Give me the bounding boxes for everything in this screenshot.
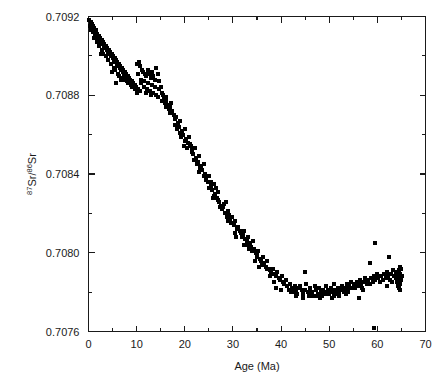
data-point — [234, 235, 238, 239]
data-point — [227, 213, 231, 217]
data-point — [256, 249, 260, 253]
data-point — [146, 68, 150, 72]
data-point — [114, 81, 118, 85]
data-point — [268, 274, 272, 278]
x-tick-label: 30 — [227, 338, 239, 350]
data-point — [149, 93, 153, 97]
data-point — [188, 142, 192, 146]
x-tick-label: 40 — [275, 338, 287, 350]
x-tick-label: 60 — [371, 338, 383, 350]
data-point — [233, 231, 237, 235]
plot-canvas: 010203040506070 0.70760.70800.70840.7088… — [0, 0, 448, 386]
data-point — [398, 265, 402, 269]
data-point — [95, 40, 99, 44]
data-point — [275, 270, 279, 274]
data-point — [397, 270, 401, 274]
data-point — [195, 162, 199, 166]
data-point — [156, 72, 160, 76]
data-point — [329, 286, 333, 290]
data-point — [207, 174, 211, 178]
data-point — [178, 131, 182, 135]
data-point — [218, 205, 222, 209]
data-point — [109, 62, 113, 66]
y-axis-title-sup-86: 86 — [25, 164, 34, 172]
data-point — [230, 215, 234, 219]
data-point — [211, 196, 215, 200]
data-point — [113, 68, 117, 72]
data-point — [298, 284, 302, 288]
data-point — [272, 280, 276, 284]
data-point — [358, 278, 362, 282]
data-point — [198, 166, 202, 170]
data-point — [346, 290, 350, 294]
data-point — [164, 105, 168, 109]
data-point — [106, 58, 110, 62]
data-point — [202, 174, 206, 178]
data-point — [361, 288, 365, 292]
data-point — [400, 274, 404, 278]
data-point — [161, 93, 165, 97]
data-point — [395, 280, 399, 284]
data-point — [274, 286, 278, 290]
y-axis-title-sup-87: 87 — [25, 187, 34, 195]
data-point — [168, 111, 172, 115]
data-point — [192, 158, 196, 162]
data-point — [288, 282, 292, 286]
data-point — [289, 290, 293, 294]
data-point — [126, 81, 130, 85]
data-point — [174, 115, 178, 119]
data-point — [197, 154, 201, 158]
data-point — [247, 247, 251, 251]
data-point — [330, 296, 334, 300]
data-point — [216, 190, 220, 194]
data-point — [280, 274, 284, 278]
data-point — [178, 119, 182, 123]
data-point — [122, 78, 126, 82]
data-point — [253, 259, 257, 263]
data-point — [242, 243, 246, 247]
data-point — [317, 286, 321, 290]
data-point — [303, 270, 307, 274]
data-point — [251, 239, 255, 243]
data-point — [398, 288, 402, 292]
data-point — [104, 54, 108, 58]
data-point — [185, 146, 189, 150]
data-point — [92, 36, 96, 40]
data-point — [187, 135, 191, 139]
data-point — [390, 280, 394, 284]
data-point — [135, 91, 139, 95]
data-point — [265, 267, 269, 271]
data-point — [357, 296, 361, 300]
data-point — [332, 282, 336, 286]
data-point — [226, 209, 230, 213]
x-tick-label: 20 — [179, 338, 191, 350]
data-point — [385, 284, 389, 288]
x-axis-title: Age (Ma) — [234, 360, 279, 372]
data-point — [265, 259, 269, 263]
data-point — [372, 326, 376, 330]
data-point — [294, 294, 298, 298]
data-point — [308, 292, 312, 296]
data-point — [202, 162, 206, 166]
x-tick-label: 0 — [85, 338, 91, 350]
data-point — [150, 83, 154, 87]
data-point — [183, 139, 187, 143]
data-point — [387, 255, 391, 259]
data-point — [209, 180, 213, 184]
data-point — [313, 284, 317, 288]
data-point — [301, 296, 305, 300]
data-point — [394, 276, 398, 280]
data-point — [214, 186, 218, 190]
data-point — [144, 91, 148, 95]
data-point — [179, 135, 183, 139]
data-point — [204, 178, 208, 182]
y-axis-title-base-sr-slash: Sr/ — [26, 172, 38, 187]
data-point — [160, 99, 164, 103]
data-point — [293, 284, 297, 288]
data-point — [197, 170, 201, 174]
data-point — [100, 48, 104, 52]
x-tick-label: 10 — [131, 338, 143, 350]
data-point — [151, 74, 155, 78]
data-point — [168, 105, 172, 109]
data-point — [271, 267, 275, 271]
